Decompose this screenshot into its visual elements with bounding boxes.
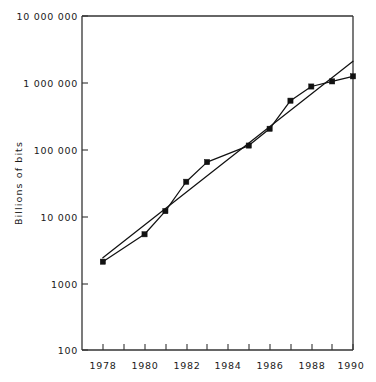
x-tick-label: 1978 — [90, 360, 117, 371]
y-axis-title: Billions of bits — [13, 141, 24, 225]
series-data-series — [100, 74, 355, 265]
chart-container: 10 000 000 1 000 000 100 000 10 000 1000… — [0, 0, 376, 382]
y-tick-label: 10 000 — [41, 212, 78, 223]
series-path — [103, 61, 353, 258]
x-axis-ticks — [103, 344, 353, 350]
series-trend-line — [103, 61, 353, 258]
y-tick-label: 100 000 — [34, 145, 78, 156]
data-point-marker — [142, 232, 147, 237]
x-tick-label: 1982 — [174, 360, 201, 371]
x-axis-tick-labels: 1978 1980 1982 1984 1986 1988 1990 — [90, 360, 365, 371]
x-tick-label: 1988 — [299, 360, 326, 371]
data-point-marker — [350, 74, 355, 79]
y-tick-label: 10 000 000 — [17, 11, 78, 22]
x-tick-label: 1980 — [132, 360, 159, 371]
x-tick-label: 1984 — [215, 360, 242, 371]
data-point-marker — [184, 179, 189, 184]
plot-frame — [82, 16, 353, 350]
y-tick-label: 1 000 000 — [23, 78, 78, 89]
y-tick-label: 100 — [58, 345, 78, 356]
series-path — [103, 76, 353, 261]
data-point-marker — [309, 84, 314, 89]
x-tick-label: 1986 — [257, 360, 284, 371]
data-point-marker — [288, 98, 293, 103]
series-layer — [100, 61, 355, 264]
y-axis-ticks — [82, 16, 88, 350]
x-tick-label: 1990 — [338, 360, 365, 371]
data-point-marker — [100, 259, 105, 264]
y-tick-label: 1000 — [51, 279, 78, 290]
y-axis-tick-labels: 10 000 000 1 000 000 100 000 10 000 1000… — [17, 11, 78, 356]
data-point-marker — [204, 160, 209, 165]
line-chart: 10 000 000 1 000 000 100 000 10 000 1000… — [0, 0, 376, 382]
